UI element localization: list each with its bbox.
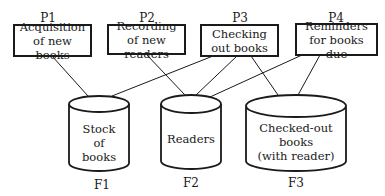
process-p1-line1: Acquisition <box>17 20 88 34</box>
process-p3-line2: out books <box>211 41 268 55</box>
process-p3-line1: Checking <box>211 27 268 41</box>
file-f1-text: Stock of books <box>69 122 129 164</box>
file-f3-line2: books <box>246 135 346 149</box>
file-f1-line3: books <box>69 150 129 164</box>
file-id-f2: F2 <box>176 177 206 189</box>
file-f3-line3: (with reader) <box>246 149 346 163</box>
process-p4-line1: Reminders <box>299 19 374 33</box>
process-p4-line2: for books due <box>299 33 374 61</box>
process-p2-line2: of new readers <box>111 33 182 61</box>
connector-p3-f3 <box>251 56 278 95</box>
process-box-p4: Reminders for books due <box>295 23 378 56</box>
file-f2-text: Readers <box>161 132 221 146</box>
process-box-p1: Acquisition of new books <box>13 24 92 57</box>
process-box-p2: Recording of new readers <box>107 24 186 55</box>
process-p1-line2: of new books <box>17 34 88 62</box>
file-id-f3: F3 <box>281 177 311 189</box>
process-id-p3: P3 <box>220 12 260 24</box>
connector-p3-f2 <box>196 56 237 95</box>
process-box-p3: Checking out books <box>200 24 279 57</box>
file-id-f1: F1 <box>87 179 117 191</box>
connector-p1-f1 <box>52 56 88 96</box>
file-f3-text: Checked-out books (with reader) <box>246 121 346 163</box>
file-f2-line1: Readers <box>161 132 221 146</box>
file-f1-line2: of <box>69 136 129 150</box>
connector-p4-f2 <box>210 55 302 97</box>
connector-p3-f1 <box>112 56 213 96</box>
file-f3-line1: Checked-out <box>246 121 346 135</box>
process-p2-line1: Recording <box>111 19 182 33</box>
connector-p4-f3 <box>298 55 320 95</box>
file-f1-line1: Stock <box>69 122 129 136</box>
